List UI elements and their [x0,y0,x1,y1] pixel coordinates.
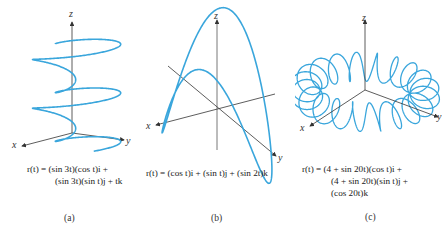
y-axis-label: y [437,112,441,122]
equation-a: r(t) = (sin 3t)(cos t)i + (sin 3t)(sin t… [27,163,122,187]
y-axis-label: y [126,136,130,146]
space-curve-c [295,52,439,131]
space-curve-a [33,39,121,151]
subfigure-label-c: (c) [365,212,376,222]
equation-c: r(t) = (4 + sin 20t)(cos t)i + (4 + sin … [302,163,408,199]
z-axis-label: z [214,11,218,21]
z-axis-label: z [362,13,366,23]
z-axis-label: z [69,9,73,19]
panel-a: z x y r(t) = (sin 3t)(cos t)i + (sin 3t)… [0,0,150,233]
panel-b: z x y r(t) = (cos t)i + (sin t)j + (sin … [150,0,295,233]
saddle-curve-plot-b [150,0,295,233]
subfigure-label-a: (a) [64,213,75,223]
x-axis-label: x [300,123,304,133]
x-axis-label: x [12,140,16,150]
y-axis-label: y [278,153,282,163]
panel-c: z x y r(t) = (4 + sin 20t)(cos t)i + (4 … [295,0,444,233]
helix-plot-a [0,0,150,233]
x-axis-label: x [146,121,150,131]
equation-b: r(t) = (cos t)i + (sin t)j + (sin 2t)k [146,167,268,179]
subfigure-label-b: (b) [211,213,222,223]
